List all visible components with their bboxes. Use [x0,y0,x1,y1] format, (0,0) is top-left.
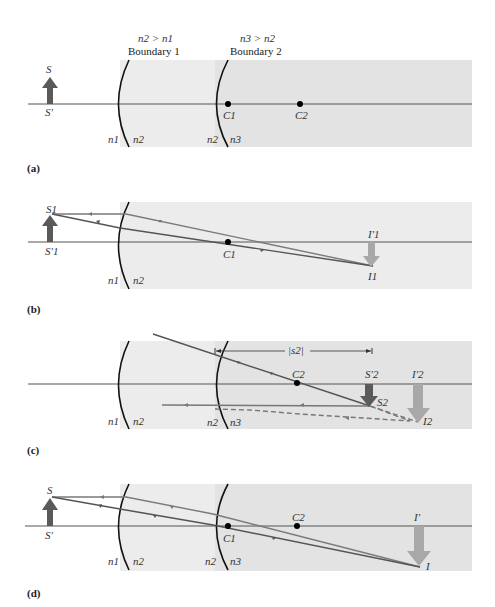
medium-n2-label: n2 [133,415,145,427]
panel-c: |s2| C2 S′2 S2 I′2 I2 n1 n2 n2 n3 (c) [27,334,472,457]
medium-n1-label: n1 [108,415,119,427]
boundary-2-relation: n3 > n2 [240,32,275,44]
medium-n2-label: n2 [207,133,219,145]
distance-label: |s2| [288,344,304,356]
boundary-1-relation: n2 > n1 [138,32,173,44]
image-tip-label: I2 [422,415,433,427]
panel-d: S S′ C1 C2 I′ I n1 n2 n2 n3 (d) [25,484,472,600]
panel-label-c: (c) [27,444,40,457]
panel-label-a: (a) [27,162,40,175]
ray-arrow [88,212,92,216]
medium-3-region [215,484,472,571]
panel-a: S S′ C1 C2 n1 n2 n2 n3 n2 > n1 Boundary … [27,32,472,175]
object-base-label: S′ [45,529,54,541]
image-top-label: I′ [413,511,421,523]
object-arrow [42,498,58,526]
image-top-label: I′1 [367,228,380,240]
center-c2-label: C2 [292,511,305,523]
medium-n1-label: n1 [108,555,119,567]
object-top-label: S1 [46,203,57,215]
object-base-label: S′1 [45,245,58,257]
boundary-1-title: Boundary 1 [128,45,180,57]
panel-b: S1 S′1 C1 I′1 I1 n1 n2 (b) [27,202,472,316]
medium-3-region [215,341,472,429]
center-c2-label: C2 [292,368,305,380]
medium-n2-label: n2 [133,274,145,286]
panel-label-d: (d) [27,587,41,600]
object-top-label: S [47,484,53,496]
image-top-label: I′2 [411,368,424,380]
center-c1-label: C1 [223,109,236,121]
center-c2-label: C2 [295,109,308,121]
center-c1-label: C1 [223,248,236,260]
object-tip-label: S2 [377,396,389,408]
center-c1-point [225,523,231,529]
boundary-2-title: Boundary 2 [230,45,282,57]
medium-n1-label: n1 [108,274,119,286]
center-c1-point [225,101,231,107]
center-c2-point [294,380,300,386]
object-base-label: S′ [45,106,54,118]
medium-n2-label: n2 [133,555,145,567]
center-c2-point [294,523,300,529]
medium-n3-label: n3 [230,416,242,428]
center-c1-point [225,239,231,245]
medium-n2-label: n2 [207,416,219,428]
object-arrow [42,77,58,104]
ray-arrow [100,495,104,499]
medium-n2-label: n2 [205,555,217,567]
panel-label-b: (b) [27,303,41,316]
center-c2-point [297,101,303,107]
medium-n3-label: n3 [230,555,242,567]
object-top-label: S′2 [365,368,379,380]
center-c1-label: C1 [223,532,236,544]
object-arrow [42,215,58,242]
medium-n1-label: n1 [108,133,119,145]
image-tip-label: I1 [367,270,377,282]
medium-n2-label: n2 [133,133,145,145]
object-top-label: S [46,63,52,75]
medium-2-region [120,202,472,289]
medium-n3-label: n3 [230,133,242,145]
lens-refraction-diagram: S S′ C1 C2 n1 n2 n2 n3 n2 > n1 Boundary … [0,0,495,607]
